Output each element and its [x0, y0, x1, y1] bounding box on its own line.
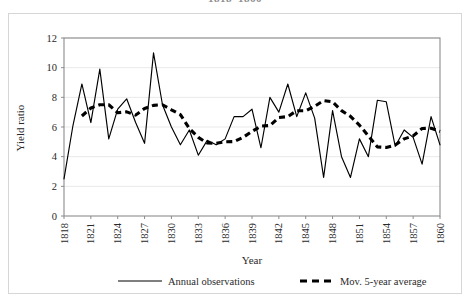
- chart-legend: Annual observationsMov. 5-year average: [118, 276, 427, 287]
- x-tick-label: 1857: [408, 223, 419, 244]
- x-tick-label: 1845: [300, 223, 311, 244]
- x-tick-label: 1860: [435, 223, 446, 244]
- legend-label: Annual observations: [168, 276, 255, 287]
- x-tick-label: 1842: [273, 223, 284, 244]
- y-tick-label: 10: [47, 62, 58, 73]
- x-tick-label: 1851: [354, 223, 365, 244]
- chart-figure: 1818–1860 024681012 18181821182418271830…: [0, 0, 470, 301]
- series-moving-average: [82, 101, 440, 148]
- x-tick-label: 1833: [193, 223, 204, 244]
- x-tick-label: 1827: [139, 223, 150, 244]
- x-tick-label: 1824: [112, 222, 123, 244]
- x-axis-ticks: 1818182118241827183018331836183918421845…: [59, 216, 446, 244]
- series-annual-observations: [64, 53, 440, 179]
- y-tick-label: 6: [52, 122, 57, 133]
- x-tick-label: 1821: [85, 223, 96, 244]
- x-tick-label: 1854: [381, 222, 392, 244]
- y-axis-title: Yield ratio: [14, 104, 26, 151]
- x-tick-label: 1818: [59, 223, 70, 244]
- y-tick-label: 0: [52, 211, 57, 222]
- x-tick-label: 1839: [247, 223, 258, 244]
- data-series-group: [64, 53, 440, 179]
- x-tick-label: 1830: [166, 223, 177, 244]
- y-tick-label: 12: [47, 33, 58, 44]
- y-tick-label: 4: [52, 151, 58, 162]
- x-tick-label: 1836: [220, 223, 231, 244]
- x-axis-title: Year: [242, 254, 263, 266]
- legend-label: Mov. 5-year average: [340, 276, 427, 287]
- line-chart: 024681012 181818211824182718301833183618…: [0, 0, 470, 301]
- y-tick-label: 2: [52, 181, 57, 192]
- y-tick-label: 8: [52, 92, 57, 103]
- x-tick-label: 1848: [327, 223, 338, 244]
- y-axis-ticks: 024681012: [47, 33, 65, 222]
